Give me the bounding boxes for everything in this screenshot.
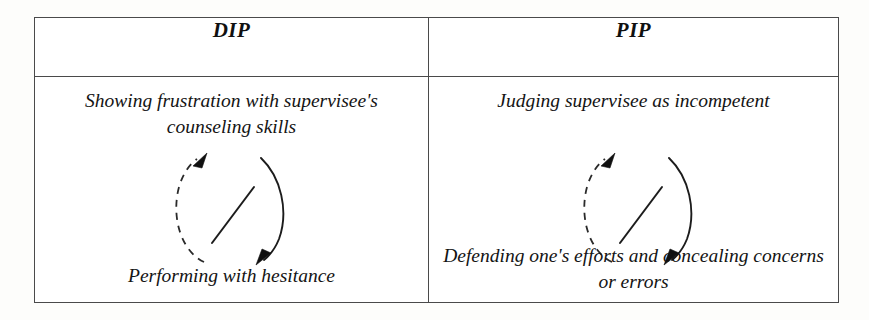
figure-page: DIP PIP Showing frustration with supervi… (0, 0, 869, 320)
pip-top-label: Judging supervisee as incompetent (429, 88, 838, 114)
column-header-pip: PIP (429, 18, 839, 77)
pip-dashed-arrowhead-icon (601, 153, 615, 168)
cell-pip: Judging supervisee as incompetent (429, 77, 839, 303)
dip-diagonal-line (212, 187, 254, 243)
cell-dip: Showing frustration with supervisee's co… (35, 77, 429, 303)
pip-diagonal-line (620, 187, 662, 243)
dip-dashed-arrowhead-icon (193, 153, 207, 168)
pip-bottom-label: Defending one's efforts and concealing c… (429, 243, 838, 295)
dip-loop-diagram (157, 149, 307, 269)
dip-dashed-arrow-path (176, 159, 204, 262)
cell-pip-content: Judging supervisee as incompetent (429, 77, 838, 301)
comparison-table: DIP PIP Showing frustration with supervi… (34, 17, 839, 303)
dip-bottom-label: Performing with hesitance (35, 263, 428, 289)
cell-dip-content: Showing frustration with supervisee's co… (35, 77, 428, 301)
column-header-dip: DIP (35, 18, 429, 77)
dip-solid-arrow-path (261, 158, 283, 260)
dip-top-label: Showing frustration with supervisee's co… (35, 88, 428, 140)
table-body-row: Showing frustration with supervisee's co… (35, 77, 839, 303)
table-header-row: DIP PIP (35, 18, 839, 77)
